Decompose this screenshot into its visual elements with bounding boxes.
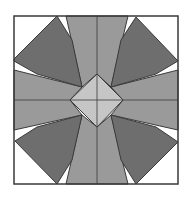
quilt-block-svg bbox=[0, 0, 188, 199]
quilt-block-diagram bbox=[0, 0, 188, 199]
